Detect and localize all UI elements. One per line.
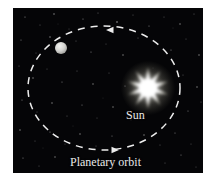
planetary-orbit-figure: Sun Planetary orbit [0,0,211,182]
sun-label: Sun [126,108,145,123]
planet-circle [55,42,67,54]
planet-body [13,8,203,173]
starfield-panel: Sun Planetary orbit [13,8,203,173]
planetary-orbit-label: Planetary orbit [70,155,141,170]
